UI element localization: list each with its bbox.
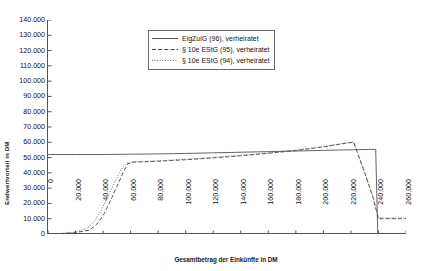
legend-item: § 10e EStG (95), verheiratet: [152, 44, 270, 55]
x-axis-title: Gesamtbetrag der Einkünfte in DM: [47, 256, 405, 263]
series-line: [48, 149, 406, 234]
series-line: [48, 142, 406, 234]
legend-item: EigZulG (96), verheiratet: [152, 33, 270, 44]
chart-legend: EigZulG (96), verheiratet§ 10e EStG (95)…: [148, 30, 275, 70]
legend-label: § 10e EStG (95), verheiratet: [182, 46, 270, 53]
legend-swatch-icon: [152, 45, 178, 54]
chart-container: Endwertvorteil in DM 010.00020.00030.000…: [0, 0, 437, 271]
legend-label: EigZulG (96), verheiratet: [182, 35, 259, 42]
series-line: [48, 142, 406, 234]
legend-item: § 10e EStG (94), verheiratet: [152, 55, 270, 66]
x-tick-label: 260.000: [405, 179, 413, 239]
legend-swatch-icon: [152, 34, 178, 43]
legend-swatch-icon: [152, 56, 178, 65]
legend-label: § 10e EStG (94), verheiratet: [182, 57, 270, 64]
